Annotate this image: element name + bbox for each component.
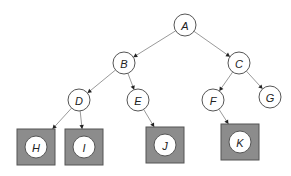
edge-B-D (87, 70, 115, 93)
node-A: A (174, 14, 196, 36)
node-C: C (228, 52, 250, 74)
node-label: J (161, 140, 168, 152)
edge-D-I (79, 111, 83, 129)
node-F: F (202, 89, 224, 111)
node-label: A (180, 20, 188, 32)
node-label: D (75, 95, 83, 107)
node-K: K (221, 124, 259, 160)
node-label: K (236, 137, 244, 149)
node-label: C (235, 58, 243, 70)
edge-A-C (194, 31, 230, 56)
nodes: ABCDEFGHIJK (17, 14, 281, 165)
edges (52, 31, 262, 129)
tree-diagram: ABCDEFGHIJK (0, 0, 291, 176)
arrowhead-icon (79, 125, 83, 129)
node-label: I (82, 142, 85, 154)
node-label: E (134, 95, 142, 107)
node-J: J (146, 127, 184, 163)
node-label: H (32, 142, 40, 154)
edge-E-J (144, 109, 155, 127)
edge-F-K (219, 109, 228, 124)
edge-C-G (246, 71, 262, 89)
arrowhead-icon (225, 53, 230, 57)
edge-A-B (133, 31, 175, 57)
edge-B-E (128, 73, 135, 89)
node-label: G (266, 92, 275, 104)
node-B: B (113, 52, 135, 74)
edge-D-H (52, 108, 71, 129)
node-G: G (259, 86, 281, 108)
node-H: H (17, 129, 55, 165)
node-I: I (65, 129, 103, 165)
arrowhead-icon (219, 86, 223, 91)
node-label: B (120, 58, 127, 70)
edge-C-F (219, 72, 232, 91)
node-E: E (127, 89, 149, 111)
node-D: D (68, 89, 90, 111)
